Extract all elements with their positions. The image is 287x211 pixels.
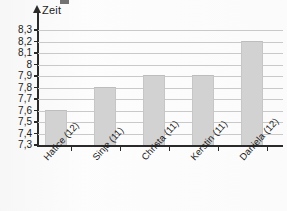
y-axis-tick-label: 7,3 [18, 140, 32, 150]
y-axis-tick-mark [34, 110, 38, 111]
y-axis-tick-label: 7,8 [18, 83, 32, 93]
scan-artifact-mark [60, 0, 69, 4]
x-axis-tick-mark [120, 145, 121, 151]
x-axis-tick-mark [71, 145, 72, 151]
y-axis-tick-mark [34, 98, 38, 99]
y-axis-tick-label: 7,4 [18, 129, 32, 139]
x-axis-tick-mark [169, 145, 170, 151]
y-axis-tick-label: 7,7 [18, 94, 32, 104]
y-axis-tick-mark [34, 64, 38, 65]
gridline [38, 30, 283, 31]
y-axis-tick-mark [34, 52, 38, 53]
y-axis-tick-mark [34, 133, 38, 134]
y-axis-tick-label: 8,3 [18, 25, 32, 35]
y-axis-tick-mark [34, 75, 38, 76]
y-axis-tick-label: 7,9 [18, 71, 32, 81]
y-axis-tick-label: 8 [26, 60, 32, 70]
y-axis-tick-mark [34, 87, 38, 88]
y-axis-tick-label: 8,2 [18, 37, 32, 47]
y-axis-tick-label: 7,5 [18, 117, 32, 127]
y-axis-title: Zeit [42, 4, 61, 16]
y-axis-tick-label: 8,1 [18, 48, 32, 58]
y-axis-tick-mark [34, 144, 38, 145]
y-axis-tick-labels: 8,38,28,187,97,87,77,67,57,47,3 [0, 30, 32, 145]
y-axis-tick-mark [34, 121, 38, 122]
x-axis-tick-mark [218, 145, 219, 151]
y-axis-tick-mark [34, 41, 38, 42]
y-axis-tick-label: 7,6 [18, 106, 32, 116]
bar-chart-screenshot: Zeit 8,38,28,187,97,87,77,67,57,47,3 Hat… [0, 0, 287, 211]
y-axis-tick-mark [34, 29, 38, 30]
x-axis-tick-mark [267, 145, 268, 151]
